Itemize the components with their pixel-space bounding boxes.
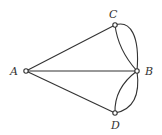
label-b: B: [144, 65, 153, 78]
edge-a-d: [26, 71, 115, 113]
label-c: C: [109, 8, 118, 21]
node-d: [113, 111, 117, 115]
label-a: A: [9, 65, 18, 78]
edge-a-c: [26, 25, 115, 71]
node-b: [135, 69, 139, 73]
graph-diagram: A B C D: [0, 0, 162, 135]
node-c: [113, 23, 117, 27]
edge-c-b-inner: [115, 25, 137, 71]
edge-c-b-outer: [115, 24, 138, 71]
node-a: [24, 69, 28, 73]
edge-d-b-inner: [115, 71, 137, 113]
label-d: D: [110, 119, 120, 132]
